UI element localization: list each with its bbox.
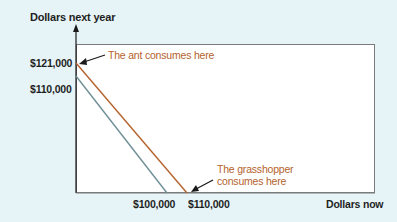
y-tick-110000: $110,000	[30, 83, 72, 95]
grasshopper-arrow	[196, 180, 213, 189]
budget-line-chart: Dollars next year $121,000 $110,000 $100…	[0, 0, 397, 222]
ant-arrowhead-icon	[79, 58, 87, 65]
y-axis-label: Dollars next year	[30, 11, 115, 23]
ant-annotation: The ant consumes here	[108, 49, 214, 61]
x-axis-label: Dollars now	[326, 198, 383, 210]
grasshopper-annotation-line2: consumes here	[217, 175, 286, 187]
original-budget-line	[76, 76, 167, 193]
x-tick-110000: $110,000	[188, 198, 230, 210]
x-tick-100000: $100,000	[133, 198, 175, 210]
grasshopper-annotation-line1: The grasshopper	[217, 163, 293, 175]
interest-budget-line	[76, 63, 187, 193]
y-axis-arrow-icon	[73, 24, 79, 32]
chart-lines	[0, 0, 397, 222]
y-tick-121000: $121,000	[30, 57, 72, 69]
ant-arrow	[84, 55, 105, 62]
